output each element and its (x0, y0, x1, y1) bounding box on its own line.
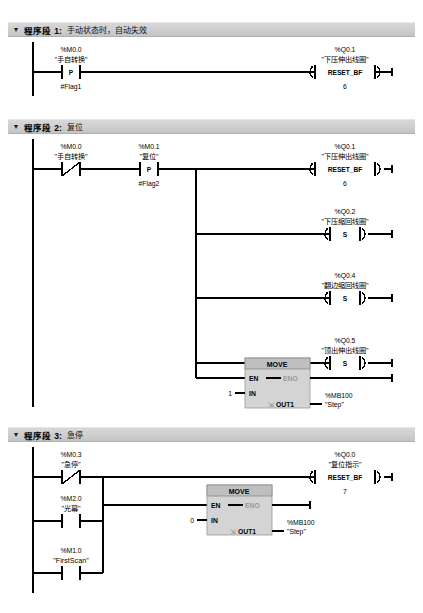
coil-name-1-1: "下压伸出线圈" (321, 55, 369, 64)
move-in-pin: IN (211, 517, 218, 524)
coil-S-Q0.2[interactable]: S (325, 227, 365, 241)
contact-name-3-1: "急停" (61, 460, 81, 469)
contact-address-3-3: %M1.0 (60, 547, 81, 554)
coil-name-2-1: "下压伸出线圈" (321, 152, 369, 161)
network-header-2[interactable]: ▼ 程序段 2: 复位 (8, 119, 415, 134)
move-out-arrow-icon: ⇲ (230, 528, 236, 535)
coil-count-1-1: 6 (343, 83, 347, 90)
triangle-down-icon[interactable]: ▼ (8, 123, 24, 130)
contact-name-2-2: "复位" (139, 152, 159, 161)
coil-count-3-1: 7 (343, 488, 347, 495)
contact-P-M0.1[interactable]: P (140, 162, 158, 176)
coil-type-label: S (343, 360, 348, 367)
network-comment-1: 手动状态时，自动失效 (67, 24, 147, 35)
contact-edge-letter: P (147, 166, 152, 173)
contact-address-2-1: %M0.0 (60, 143, 81, 150)
contact-NO-M1.0[interactable] (62, 566, 80, 580)
contact-address-2-2: %M0.1 (138, 143, 159, 150)
move-out-name-2: "Step" (325, 401, 344, 409)
coil-address-1-1: %Q0.1 (335, 46, 356, 54)
network-body-1: P %M0.0 "手自转换" #Flag1 RESET_BF %Q0.1 "下压… (0, 38, 423, 110)
move-out-arrow-icon: ⇲ (268, 401, 274, 408)
triangle-down-icon[interactable]: ▼ (8, 431, 24, 438)
contact-name-3-2: "光幕" (61, 504, 81, 513)
contact-edge-letter: P (69, 69, 74, 76)
coil-RESET_BF-Q0.1[interactable]: RESET_BF (310, 162, 380, 176)
contact-NC-M0.0[interactable] (62, 162, 80, 176)
network-title-2: 程序段 2: (24, 121, 62, 133)
coil-address-2-2: %Q0.2 (335, 208, 356, 216)
network-header-1[interactable]: ▼ 程序段 1: 手动状态时，自动失效 (8, 22, 415, 37)
coil-name-2-3: "翻边缩回线圈" (321, 281, 369, 290)
contact-P-M0.0[interactable]: P (62, 65, 80, 80)
coil-S-Q0.4[interactable]: S (325, 291, 365, 305)
network-header-3[interactable]: ▼ 程序段 3: 急停 (8, 427, 415, 442)
coil-count-2-1: 6 (343, 180, 347, 187)
move-block-2[interactable]: MOVE EN ENO IN OUT1 ⇲ (245, 358, 310, 408)
contact-name-1-1: "手自转换" (54, 55, 88, 64)
move-en-pin: EN (249, 375, 259, 382)
coil-type-label: S (343, 231, 348, 238)
move-in-value-3: 0 (190, 517, 194, 524)
contact-flag-1-1: #Flag1 (61, 83, 82, 91)
triangle-down-icon[interactable]: ▼ (8, 26, 24, 33)
coil-S-Q0.5[interactable]: S (325, 356, 365, 370)
coil-address-2-1: %Q0.1 (335, 143, 356, 151)
move-eno-pin: ENO (245, 502, 260, 509)
move-block-title: MOVE (229, 488, 250, 495)
coil-address-3-1: %Q0.0 (335, 451, 356, 459)
contact-NC-M0.3[interactable] (62, 470, 80, 484)
coil-RESET_BF-Q0.1[interactable]: RESET_BF (310, 65, 380, 79)
network-body-3: %M0.3 "急停" %M2.0 "光幕" %M1.0 "FirstScan" (0, 443, 423, 613)
network-title-3: 程序段 3: (24, 429, 62, 441)
network-comment-2: 复位 (67, 121, 83, 132)
network-body-2: %M0.0 "手自转换" P %M0.1 "复位" #Flag2 RESET_B… (0, 135, 423, 416)
contact-name-3-3: "FirstScan" (53, 556, 89, 565)
coil-RESET_BF-Q0.0[interactable]: RESET_BF (310, 470, 380, 484)
move-in-value-2: 1 (228, 390, 232, 397)
move-eno-pin: ENO (283, 375, 298, 382)
coil-type-label: RESET_BF (328, 69, 362, 76)
move-out-address-3: %MB100 (287, 519, 315, 526)
move-out-name-3: "Step" (287, 528, 306, 536)
coil-type-label: RESET_BF (328, 474, 362, 481)
lad-editor-canvas: ▼ 程序段 1: 手动状态时，自动失效 P %M0.0 "手自转换" #Flag… (0, 0, 423, 613)
move-out1-pin: OUT1 (276, 401, 294, 408)
contact-NO-M2.0[interactable] (62, 514, 80, 528)
coil-address-2-3: %Q0.4 (335, 272, 356, 280)
network-comment-3: 急停 (67, 429, 83, 440)
move-out1-pin: OUT1 (238, 528, 256, 535)
coil-name-2-2: "下压缩回线圈" (321, 217, 369, 226)
move-block-title: MOVE (267, 361, 288, 368)
contact-address-3-1: %M0.3 (60, 451, 81, 458)
move-block-3[interactable]: MOVE EN ENO IN OUT1 ⇲ (207, 485, 272, 535)
network-title-1: 程序段 1: (24, 24, 62, 36)
contact-address-3-2: %M2.0 (60, 495, 81, 502)
coil-address-2-4: %Q0.5 (335, 337, 356, 345)
coil-name-2-4: "顶出伸出线圈" (321, 346, 369, 355)
move-out-address-2: %MB100 (325, 392, 353, 399)
coil-name-3-1: "复位指示" (328, 460, 362, 469)
move-en-pin: EN (211, 502, 221, 509)
coil-type-label: S (343, 295, 348, 302)
contact-name-2-1: "手自转换" (54, 152, 88, 161)
contact-address-1-1: %M0.0 (60, 46, 81, 53)
coil-type-label: RESET_BF (328, 166, 362, 173)
move-in-pin: IN (249, 390, 256, 397)
contact-flag-2-2: #Flag2 (139, 180, 160, 188)
